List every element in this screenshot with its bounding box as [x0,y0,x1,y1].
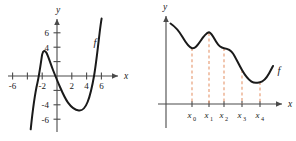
left-x-label-4: 4 [84,81,89,91]
right-x-axis-arrowhead [276,101,282,107]
right-partition-label-x3-base: x [237,110,242,120]
figure-root: -6 -2 2 4 6 6 4 -4 -6 x y f [0,0,296,141]
left-y-label--6: -6 [42,115,50,125]
right-x-axis-label: x [287,99,293,109]
right-partition-label-x1: x 1 [204,110,214,122]
right-y-axis-arrowhead [163,16,169,22]
left-plot-panel: -6 -2 2 4 6 6 4 -4 -6 x y f [0,0,148,141]
left-y-axis-label: y [55,5,61,15]
right-partition-label-x3: x 3 [237,110,247,122]
right-partition-label-x4-base: x [255,110,260,120]
left-y-label-6: 6 [45,28,50,38]
right-partition-label-x4: x 4 [255,110,265,122]
right-partition-label-x0: x 0 [187,110,197,122]
right-partition-label-x2-base: x [219,110,224,120]
left-y-label--4: -4 [42,100,50,110]
right-function-label: f [278,65,283,76]
right-partition-label-x3-sub: 3 [243,115,246,122]
left-x-label--6: -6 [9,81,17,91]
right-partition-label-x4-sub: 4 [261,115,264,122]
left-x-axis-arrowhead [112,73,118,79]
right-partition-label-x1-base: x [204,110,209,120]
left-y-axis-arrowhead [54,19,60,25]
right-partition-label-x1-sub: 1 [210,115,213,122]
right-partition-label-x2: x 2 [219,110,229,122]
right-partition-label-x2-sub: 2 [225,115,228,122]
right-partition-label-x0-base: x [187,110,192,120]
right-plot-svg: x y f x 0 x 1 [148,0,296,141]
left-plot-svg: -6 -2 2 4 6 6 4 -4 -6 x y f [0,0,148,141]
right-y-axis-label: y [162,2,168,12]
right-function-curve [171,24,274,83]
left-x-label--2: -2 [38,81,46,91]
right-partition-label-x0-sub: 0 [193,115,196,122]
left-function-curve [31,19,102,130]
right-plot-panel: x y f x 0 x 1 [148,0,296,141]
left-x-axis-label: x [123,71,129,81]
left-x-label-6: 6 [99,81,104,91]
left-x-label-2: 2 [70,81,75,91]
